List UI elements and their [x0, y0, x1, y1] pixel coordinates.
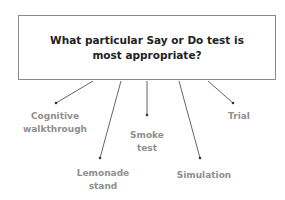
option-cognitive-walkthrough: Cognitive walkthrough: [20, 110, 90, 136]
option-trial: Trial: [228, 110, 250, 123]
endpoint-dot: [99, 157, 102, 160]
connector-line: [179, 81, 200, 158]
connector-lines: [0, 0, 285, 200]
endpoint-dot: [55, 102, 58, 105]
connector-line: [56, 81, 93, 103]
connector-line: [208, 81, 233, 103]
endpoint-dot: [146, 114, 149, 117]
connector-line: [100, 81, 121, 158]
option-lemonade-stand: Lemonade stand: [73, 167, 133, 193]
option-smoke-test: Smoke test: [127, 129, 167, 155]
endpoint-dot: [232, 102, 235, 105]
option-simulation: Simulation: [177, 169, 232, 182]
endpoint-dot: [199, 157, 202, 160]
